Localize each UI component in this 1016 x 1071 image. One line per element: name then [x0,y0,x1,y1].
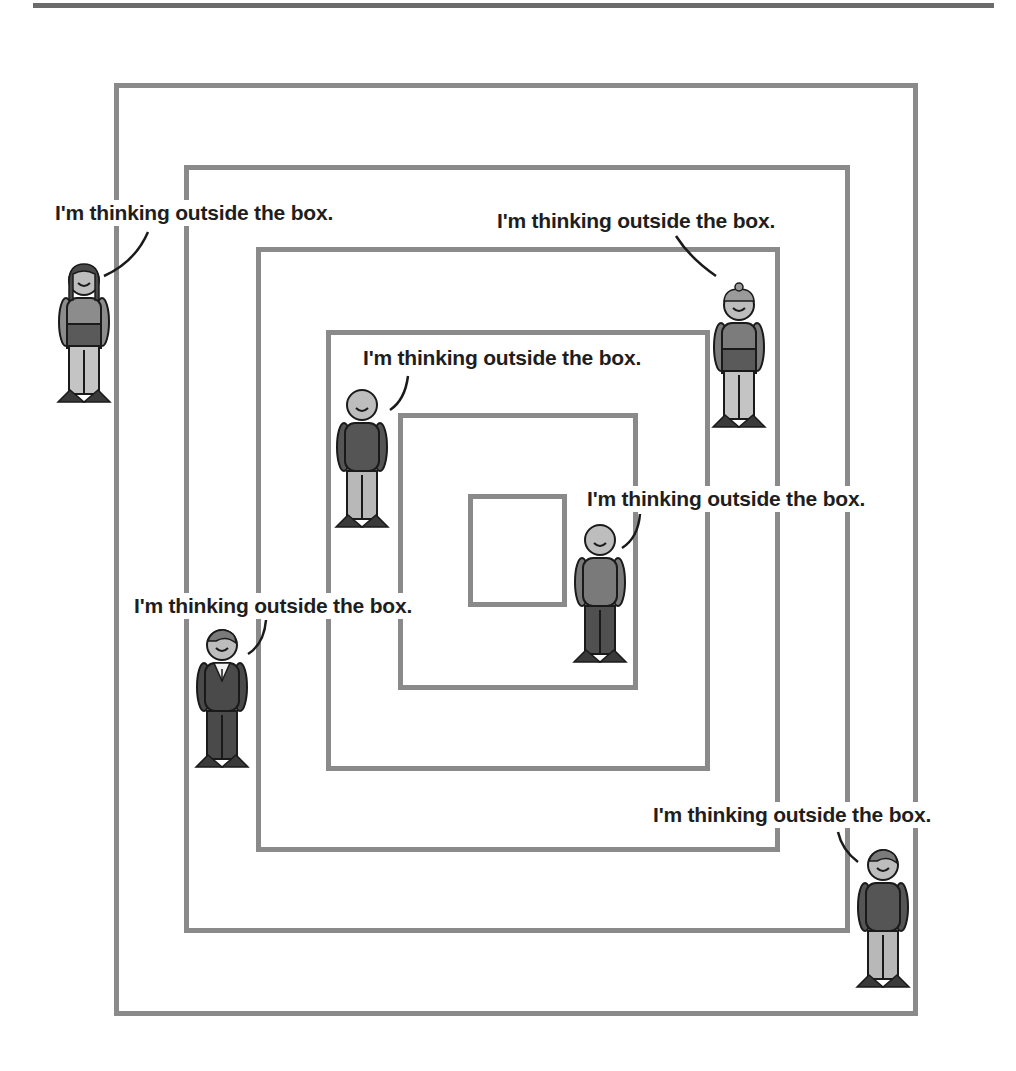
caption-2: I'm thinking outside the box. [495,208,777,234]
caption-1: I'm thinking outside the box. [53,200,335,226]
speech-pointer-5 [248,620,266,654]
short-figure [574,525,626,662]
long-hair-figure [58,264,110,402]
suit-figure [196,630,248,767]
speech-pointer-3 [390,376,408,410]
comic-panel: I'm thinking outside the box. I'm thinki… [0,0,1016,1071]
caption-6: I'm thinking outside the box. [651,802,933,828]
speech-pointer-4 [622,514,640,548]
caption-5: I'm thinking outside the box. [132,593,414,619]
casual-figure [857,850,909,987]
figures-layer [0,0,1016,1071]
speech-pointer-6 [838,832,858,862]
caption-4: I'm thinking outside the box. [585,486,867,512]
speech-pointer-1 [104,232,148,276]
beanie-figure [713,283,765,427]
bald-figure [336,390,388,527]
caption-3: I'm thinking outside the box. [361,345,643,371]
speech-pointer-2 [676,236,716,276]
